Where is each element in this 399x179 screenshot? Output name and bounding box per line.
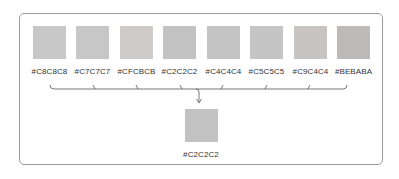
result-swatch: [185, 109, 218, 142]
result-label: #C2C2C2: [176, 150, 226, 159]
